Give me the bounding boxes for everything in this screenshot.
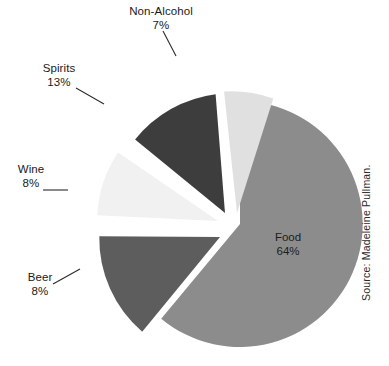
pie-label-non-alcohol-name: Non-Alcohol	[118, 5, 204, 19]
pie-label-beer-name: Beer	[12, 271, 68, 285]
pie-label-food: Food 64%	[256, 231, 320, 258]
pie-chart-figure: Non-Alcohol 7% Spirits 13% Wine 8% Beer …	[0, 0, 389, 366]
source-credit: Source: Madeleine Pullman.	[360, 171, 372, 301]
pie-label-non-alcohol-value: 7%	[118, 19, 204, 33]
pie-label-beer-value: 8%	[12, 285, 68, 299]
pie-label-beer: Beer 8%	[12, 271, 68, 298]
pie-label-wine-name: Wine	[2, 163, 60, 177]
pie-label-food-value: 64%	[256, 245, 320, 259]
pie-label-spirits-value: 13%	[26, 76, 92, 90]
pie-label-food-name: Food	[256, 231, 320, 245]
leader-line-non-alcohol	[163, 31, 176, 56]
pie-label-spirits-name: Spirits	[26, 62, 92, 76]
leader-line-spirits	[76, 88, 104, 104]
pie-label-spirits: Spirits 13%	[26, 62, 92, 89]
pie-label-wine: Wine 8%	[2, 163, 60, 190]
pie-label-wine-value: 8%	[2, 177, 60, 191]
pie-label-non-alcohol: Non-Alcohol 7%	[118, 5, 204, 32]
